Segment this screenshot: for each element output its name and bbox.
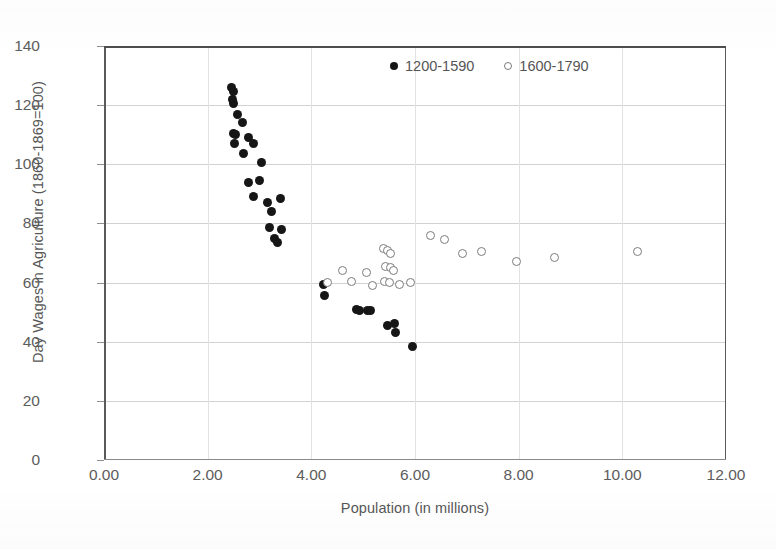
data-point xyxy=(255,176,264,185)
gridline-x-10 xyxy=(622,46,623,460)
x-axis-line xyxy=(104,459,726,461)
data-point xyxy=(229,99,238,108)
legend-label: 1600-1790 xyxy=(519,58,588,74)
filled-circle-icon xyxy=(390,62,398,70)
scatter-chart-figure: Day Wages in Agriculture (1860-1869=100)… xyxy=(0,0,776,549)
data-point xyxy=(406,278,415,287)
y-tick-mark-80 xyxy=(97,223,104,224)
data-point xyxy=(366,306,375,315)
data-point xyxy=(368,281,377,290)
x-tick-label-12.00: 12.00 xyxy=(686,466,766,484)
y-tick-label-100: 100 xyxy=(0,155,40,173)
data-point xyxy=(550,253,559,262)
data-point xyxy=(257,158,266,167)
data-point xyxy=(320,291,329,300)
y-tick-mark-40 xyxy=(97,342,104,343)
data-point xyxy=(273,238,282,247)
x-tick-label-8.00: 8.00 xyxy=(479,466,559,484)
data-point xyxy=(323,278,332,287)
gridline-x-2 xyxy=(208,46,209,460)
legend-entry-1200-1590: 1200-1590 xyxy=(390,58,474,74)
data-point xyxy=(633,247,642,256)
gridline-x-8 xyxy=(519,46,520,460)
data-point xyxy=(267,207,276,216)
data-point xyxy=(263,198,272,207)
y-tick-mark-20 xyxy=(97,401,104,402)
plot-area xyxy=(104,46,726,460)
data-point xyxy=(408,342,417,351)
y-tick-label-0: 0 xyxy=(0,451,40,469)
y-tick-mark-0 xyxy=(97,460,104,461)
y-tick-mark-140 xyxy=(97,46,104,47)
data-point xyxy=(276,194,285,203)
data-point xyxy=(458,249,467,258)
data-point xyxy=(390,319,399,328)
y-tick-label-40: 40 xyxy=(0,333,40,351)
x-tick-label-10.00: 10.00 xyxy=(582,466,662,484)
plot-right-border xyxy=(725,46,727,460)
y-tick-label-120: 120 xyxy=(0,96,40,114)
open-circle-icon xyxy=(504,62,512,70)
x-tick-label-0.00: 0.00 xyxy=(64,466,144,484)
data-point xyxy=(265,223,274,232)
data-point xyxy=(231,130,240,139)
data-point xyxy=(391,328,400,337)
y-tick-label-140: 140 xyxy=(0,37,40,55)
data-point xyxy=(244,178,253,187)
y-tick-label-80: 80 xyxy=(0,214,40,232)
data-point xyxy=(230,139,239,148)
y-tick-mark-100 xyxy=(97,164,104,165)
data-point xyxy=(362,268,371,277)
data-point xyxy=(233,110,242,119)
data-point xyxy=(385,278,394,287)
data-point xyxy=(389,266,398,275)
gridline-x-4 xyxy=(311,46,312,460)
data-point xyxy=(386,249,395,258)
gridline-x-6 xyxy=(415,46,416,460)
y-tick-label-60: 60 xyxy=(0,274,40,292)
data-point xyxy=(512,257,521,266)
y-tick-label-20: 20 xyxy=(0,392,40,410)
y-tick-mark-120 xyxy=(97,105,104,106)
legend-entry-1600-1790: 1600-1790 xyxy=(504,58,588,74)
data-point xyxy=(249,192,258,201)
data-point xyxy=(239,149,248,158)
data-point xyxy=(249,139,258,148)
data-point xyxy=(347,277,356,286)
data-point xyxy=(477,247,486,256)
data-point xyxy=(395,280,404,289)
data-point xyxy=(440,235,449,244)
data-point xyxy=(338,266,347,275)
x-tick-label-2.00: 2.00 xyxy=(168,466,248,484)
x-tick-label-4.00: 4.00 xyxy=(271,466,351,484)
data-point xyxy=(238,118,247,127)
data-point xyxy=(426,231,435,240)
chart-legend: 1200-15901600-1790 xyxy=(390,58,589,74)
y-axis-line xyxy=(104,46,106,460)
y-tick-mark-60 xyxy=(97,283,104,284)
legend-label: 1200-1590 xyxy=(405,58,474,74)
data-point xyxy=(277,225,286,234)
x-axis-title: Population (in millions) xyxy=(104,500,726,516)
x-tick-label-6.00: 6.00 xyxy=(375,466,455,484)
plot-top-border xyxy=(104,46,726,48)
